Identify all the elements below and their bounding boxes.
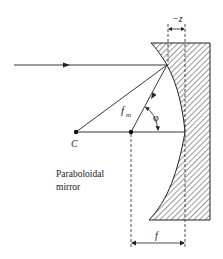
mirror-caption: Paraboloidal mirror (56, 169, 104, 192)
f-label: f (155, 230, 159, 241)
minus-z-label: −z (172, 13, 183, 24)
svg-text:m: m (126, 111, 131, 119)
incident-ray (14, 63, 167, 68)
focal-point (129, 130, 133, 134)
angle-phi: φ (145, 107, 160, 131)
reflected-ray (131, 65, 167, 132)
paraboloidal-mirror-diagram: −z φ f m C Paraboloidal mirror (0, 0, 223, 259)
svg-text:Paraboloidal: Paraboloidal (56, 169, 104, 179)
center-point-c: C (71, 130, 78, 149)
fm-label: f m (121, 104, 131, 119)
svg-text:mirror: mirror (56, 182, 81, 192)
mirror (149, 43, 210, 220)
arrow-icon (63, 63, 70, 68)
svg-text:C: C (71, 138, 78, 149)
phi-label: φ (153, 112, 159, 123)
